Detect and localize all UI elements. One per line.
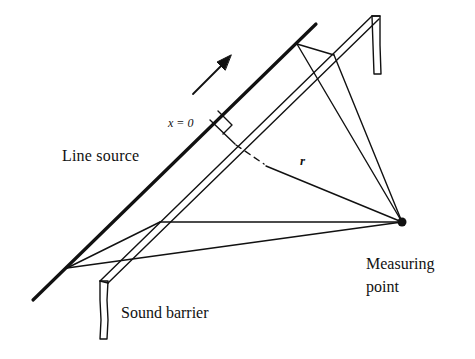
measuring-point [398,218,407,227]
upper-diffraction-rays [297,44,402,222]
lower-diffraction-rays [67,222,402,268]
right-angle-marker [210,111,235,144]
distance-r-line [236,145,402,222]
sound-barrier [100,16,381,339]
measuring-point-label-line2: point [366,275,434,298]
measuring-point-label-line1: Measuring [366,252,434,275]
line-source-label: Line source [62,147,139,165]
sound-barrier-diagram [0,0,475,359]
direction-arrow-icon [193,55,231,94]
distance-r-label: r [300,153,305,169]
sound-barrier-label: Sound barrier [121,304,209,322]
x-origin-label: x = 0 [168,116,193,131]
measuring-point-label: Measuring point [366,252,434,298]
barrier-left-post [100,281,108,339]
